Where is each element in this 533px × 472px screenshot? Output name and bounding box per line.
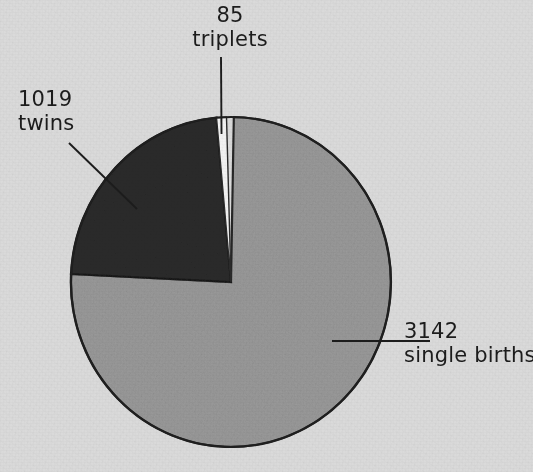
annotation-triplets-value: 85 <box>216 3 243 27</box>
leader-line-triplets <box>221 57 222 134</box>
annotation-single-births-name: single births <box>404 344 532 368</box>
pie-chart-figure: 85 triplets 1019 twins 3142 single birth… <box>0 0 533 472</box>
annotation-twins-name: twins <box>18 112 138 136</box>
annotation-triplets-name: triplets <box>184 28 276 52</box>
pie-chart-canvas <box>0 0 533 472</box>
annotation-single-births: 3142 single births <box>404 320 532 367</box>
annotation-triplets: 85 triplets <box>184 4 276 51</box>
pie-slice-twins[interactable] <box>71 118 231 283</box>
annotation-single-births-value: 3142 <box>404 319 458 343</box>
annotation-twins-value: 1019 <box>18 87 72 111</box>
annotation-twins: 1019 twins <box>18 88 138 135</box>
